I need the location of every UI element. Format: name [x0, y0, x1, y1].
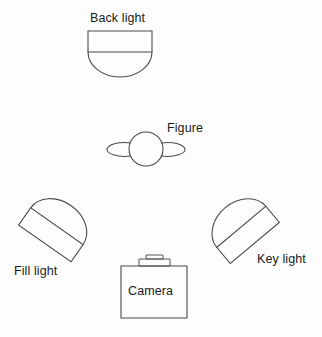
back-light-body [88, 31, 152, 52]
figure-shape [107, 132, 185, 166]
camera-label: Camera [128, 284, 173, 298]
fill-light-dome [31, 187, 98, 244]
fill-light-body [19, 208, 83, 262]
fill-light-shape [19, 187, 98, 261]
fill-light-label: Fill light [14, 264, 57, 278]
back-light-label: Back light [90, 11, 145, 25]
key-light-label: Key light [257, 252, 306, 266]
lighting-setup-diagram: Back light Figure Fill light Key light C… [0, 0, 322, 337]
key-light-dome [201, 187, 266, 247]
figure-right-lobe [161, 142, 185, 156]
figure-head-circle [129, 132, 163, 166]
figure-label: Figure [167, 121, 203, 135]
back-light-dome [88, 52, 152, 77]
camera-top-cap [146, 255, 163, 259]
camera-viewfinder [139, 259, 170, 266]
back-light-shape [88, 31, 152, 77]
figure-left-lobe [107, 142, 131, 156]
